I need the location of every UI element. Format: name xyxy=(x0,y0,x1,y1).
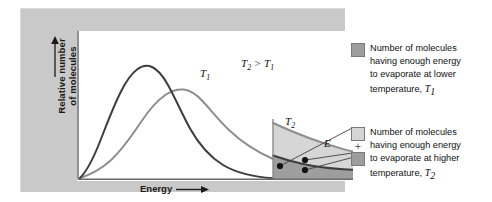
legend-swatch-light xyxy=(351,127,365,141)
legend-lower-subscript: 2 xyxy=(430,169,435,180)
legend-text-upper: Number of molecules having enough energy… xyxy=(370,42,461,98)
callout-dot-t2-region-lower xyxy=(302,167,308,173)
temperature-comparison-label: T2 > T1 xyxy=(241,57,274,72)
legend-upper-line-1: Number of molecules xyxy=(370,43,457,53)
curve-label-t1-subscript: 1 xyxy=(206,73,210,82)
legend-swatch-dark-2 xyxy=(351,152,365,166)
x-axis-title-label: Energy xyxy=(140,183,172,194)
callout-dot-t1-region xyxy=(277,163,283,169)
legend-swatch-group-lower: + xyxy=(351,126,365,166)
distribution-curves-svg xyxy=(77,31,353,181)
threshold-energy-label: E xyxy=(324,137,331,149)
legend-item-lower-temperature: Number of molecules having enough energy… xyxy=(351,42,461,98)
curve-label-t1: T1 xyxy=(200,67,210,82)
legend-upper-line-2: having enough energy xyxy=(370,56,461,66)
x-axis-title: Energy xyxy=(140,183,210,194)
legend-lower-line-2: having enough energy xyxy=(370,140,461,150)
y-axis-direction-arrow-icon xyxy=(48,36,62,78)
legend-lower-line-3: to evaporate at higher xyxy=(370,153,459,163)
legend-lower-line-1: Number of molecules xyxy=(370,127,457,137)
x-axis-direction-arrow-icon xyxy=(176,185,210,194)
figure-page: Relative number of molecules Energy xyxy=(0,0,492,202)
legend-swatch-group-upper xyxy=(351,42,365,57)
legend-item-higher-temperature: + Number of molecules having enough ener… xyxy=(351,126,461,182)
legend-upper-line-4: temperature, xyxy=(370,84,425,94)
legend-upper-subscript: 1 xyxy=(430,85,435,96)
legend-swatch-dark xyxy=(351,43,365,57)
legend-upper-line-3: to evaporate at lower xyxy=(370,69,456,79)
legend-plus-symbol: + xyxy=(355,142,361,152)
legend-text-lower: Number of molecules having enough energy… xyxy=(370,126,461,182)
callout-dot-t2-region-upper xyxy=(302,157,308,163)
legend-lower-line-4: temperature, xyxy=(370,168,425,178)
curve-label-t2: T2 xyxy=(285,115,295,130)
figure-mat-frame: Relative number of molecules Energy xyxy=(20,8,345,192)
plot-panel: T1 T2 T2 > T1 E xyxy=(77,31,353,181)
curve-label-t2-subscript: 2 xyxy=(291,121,295,130)
